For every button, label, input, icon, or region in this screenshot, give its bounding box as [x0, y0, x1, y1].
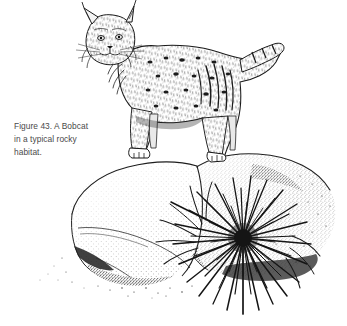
illustration-svg	[0, 0, 347, 326]
figure-caption: Figure 43. A Bobcat in a typical rocky h…	[14, 120, 126, 160]
figure-container: Figure 43. A Bobcat in a typical rocky h…	[0, 0, 347, 326]
bobcat-illustration	[0, 0, 347, 326]
